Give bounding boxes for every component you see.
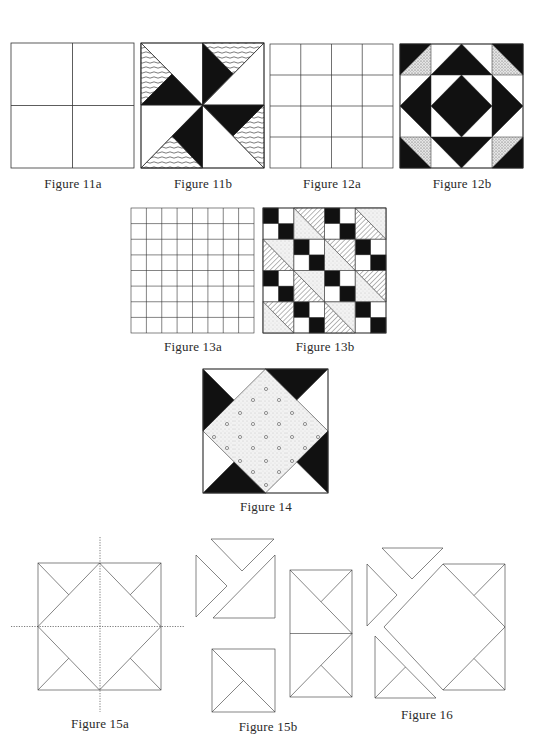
- figure-13a: [131, 208, 254, 333]
- figure-12b: [400, 44, 523, 168]
- caption-figure-11b: Figure 11b: [174, 176, 232, 192]
- caption-figure-14: Figure 14: [240, 499, 292, 515]
- figure-16: [367, 548, 505, 698]
- caption-figure-12b: Figure 12b: [433, 176, 492, 192]
- figure-12a: [270, 44, 393, 168]
- caption-figure-15a: Figure 15a: [71, 716, 129, 732]
- figure-13b: [263, 208, 386, 333]
- figure-11b: [141, 43, 264, 168]
- figure-15b: [196, 539, 352, 712]
- caption-figure-16: Figure 16: [401, 707, 453, 723]
- caption-figure-15b: Figure 15b: [239, 719, 298, 734]
- caption-figure-11a: Figure 11a: [44, 176, 101, 192]
- figure-15a: [11, 537, 185, 712]
- figure-14: [203, 369, 328, 493]
- caption-figure-13a: Figure 13a: [164, 339, 222, 355]
- figures-canvas: [0, 0, 539, 734]
- caption-figure-13b: Figure 13b: [296, 339, 355, 355]
- figure-11a: [11, 43, 134, 168]
- caption-figure-12a: Figure 12a: [303, 176, 361, 192]
